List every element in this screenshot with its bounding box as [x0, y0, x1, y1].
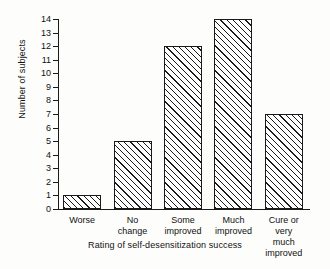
y-tick-mark: [53, 195, 58, 196]
x-tick-label: No change: [118, 215, 148, 237]
bar: [164, 46, 202, 209]
y-tick-label: 7: [46, 109, 51, 119]
y-tick-label: 1: [46, 190, 51, 200]
y-tick-mark: [53, 155, 58, 156]
y-tick-mark: [53, 73, 58, 74]
y-tick-label: 9: [46, 82, 51, 92]
y-tick-mark: [53, 33, 58, 34]
y-tick-mark: [53, 46, 58, 47]
plot-area: 01234567891011121314 WorseNo changeSome …: [58, 19, 310, 210]
x-tick-label: Cure or very much improved: [265, 215, 302, 259]
x-tick-label: Some improved: [164, 215, 201, 237]
y-tick-mark: [53, 141, 58, 142]
y-tick-label: 8: [46, 95, 51, 105]
y-tick-label: 5: [46, 136, 51, 146]
y-tick-mark: [53, 114, 58, 115]
x-axis-title: Rating of self-desensitization success: [0, 240, 330, 250]
bar-chart-figure: Number of subjects 01234567891011121314 …: [0, 0, 330, 269]
y-tick-mark: [53, 19, 58, 20]
y-axis-title: Number of subjects: [17, 19, 27, 139]
y-tick-mark: [53, 182, 58, 183]
y-tick-mark: [53, 128, 58, 129]
y-tick-label: 4: [46, 150, 51, 160]
bar: [265, 114, 303, 209]
y-tick-label: 11: [42, 55, 51, 65]
y-tick-label: 0: [46, 204, 51, 214]
y-tick-label: 6: [46, 123, 51, 133]
y-tick-mark: [53, 168, 58, 169]
y-tick-mark: [53, 87, 58, 88]
x-tick-label: Worse: [69, 215, 95, 226]
y-tick-label: 10: [41, 68, 51, 78]
bar: [63, 195, 101, 209]
x-tick-label: Much improved: [215, 215, 252, 237]
y-tick-label: 14: [41, 14, 51, 24]
y-tick-mark: [53, 60, 58, 61]
y-tick-mark: [53, 100, 58, 101]
y-tick-label: 2: [46, 177, 51, 187]
y-axis-line: [58, 19, 59, 210]
x-axis-line: [58, 209, 310, 210]
bar: [214, 19, 252, 209]
bar: [114, 141, 152, 209]
y-tick-label: 13: [41, 28, 51, 38]
y-tick-label: 12: [41, 41, 51, 51]
y-tick-mark: [53, 209, 58, 210]
y-tick-label: 3: [46, 163, 51, 173]
